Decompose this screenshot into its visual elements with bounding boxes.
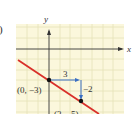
point-label-0-neg3: (0, −3) — [17, 85, 42, 95]
graph: y x 3 −2 (0, −3) (3, −5) — [0, 0, 138, 114]
point-0-neg3 — [47, 78, 51, 82]
run-label: 3 — [63, 69, 68, 79]
rise-label: −2 — [83, 84, 93, 94]
y-axis-label: y — [43, 14, 48, 24]
point-3-neg5 — [79, 99, 83, 103]
point-label-3-neg5: (3, −5) — [54, 109, 79, 114]
x-axis-label: x — [126, 44, 131, 54]
